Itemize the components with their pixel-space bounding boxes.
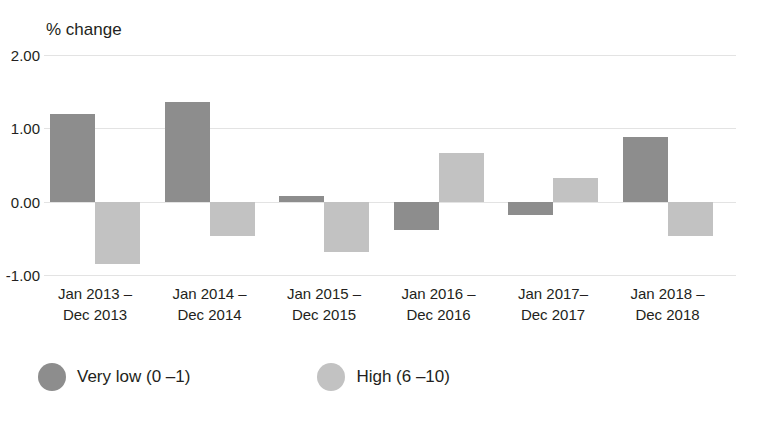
- legend-item[interactable]: High (6 –10): [317, 363, 450, 391]
- bar-chart: % change 2.001.000.00-1.00 Jan 2013 –Dec…: [0, 0, 759, 446]
- y-axis-tick-label: 0.00: [0, 195, 40, 210]
- x-axis-label: Jan 2014 –Dec 2014: [150, 283, 270, 325]
- legend-swatch-circle-icon: [38, 363, 66, 391]
- bar: [623, 137, 668, 202]
- x-axis-label: Jan 2015 –Dec 2015: [264, 283, 384, 325]
- y-axis-tick-label: 1.00: [0, 121, 40, 136]
- x-axis-label-line1: Jan 2016 –: [401, 285, 475, 302]
- legend-swatch-circle-icon: [317, 363, 345, 391]
- x-axis-label-line1: Jan 2013 –: [58, 285, 132, 302]
- bar: [279, 196, 324, 202]
- x-axis-label-line2: Dec 2016: [379, 304, 499, 325]
- bar: [394, 202, 439, 231]
- bar: [553, 178, 598, 201]
- bar: [508, 202, 553, 215]
- y-axis-title: % change: [46, 20, 122, 40]
- x-axis-label: Jan 2018 –Dec 2018: [608, 283, 728, 325]
- chart-legend: Very low (0 –1)High (6 –10): [38, 363, 450, 391]
- bar: [165, 102, 210, 202]
- y-axis-tick-label: -1.00: [0, 268, 40, 283]
- bar: [439, 153, 484, 202]
- x-axis-label: Jan 2017–Dec 2017: [493, 283, 613, 325]
- gridline-0.00: [44, 202, 736, 203]
- x-axis-label-line1: Jan 2018 –: [630, 285, 704, 302]
- gridline-1.00: [44, 128, 736, 129]
- bar: [210, 202, 255, 236]
- x-axis-label-line2: Dec 2014: [150, 304, 270, 325]
- x-axis-label-line2: Dec 2018: [608, 304, 728, 325]
- plot-area: [44, 55, 736, 275]
- x-axis-label-line1: Jan 2015 –: [287, 285, 361, 302]
- x-axis-label-line1: Jan 2014 –: [172, 285, 246, 302]
- legend-item[interactable]: Very low (0 –1): [38, 363, 190, 391]
- legend-label: Very low (0 –1): [77, 367, 190, 387]
- x-axis-label: Jan 2016 –Dec 2016: [379, 283, 499, 325]
- gridline--1.00: [44, 275, 736, 276]
- bar: [324, 202, 369, 252]
- bar: [50, 114, 95, 201]
- x-axis-label-line1: Jan 2017–: [518, 285, 588, 302]
- bar: [95, 202, 140, 264]
- bar: [668, 202, 713, 236]
- legend-label: High (6 –10): [356, 367, 450, 387]
- gridline-2.00: [44, 55, 736, 56]
- x-axis-label-line2: Dec 2015: [264, 304, 384, 325]
- x-axis-label: Jan 2013 –Dec 2013: [35, 283, 155, 325]
- x-axis-label-line2: Dec 2017: [493, 304, 613, 325]
- x-axis-label-line2: Dec 2013: [35, 304, 155, 325]
- y-axis-tick-label: 2.00: [0, 48, 40, 63]
